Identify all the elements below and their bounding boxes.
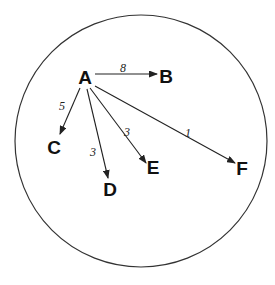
node-b: B	[159, 66, 173, 87]
edge-a-d-arrow	[87, 89, 108, 178]
nodes-group: ABCDEF	[47, 66, 248, 200]
edge-weight-a-b: 8	[120, 61, 126, 75]
edge-a-f-arrow	[95, 86, 235, 163]
node-e: E	[147, 157, 160, 178]
edge-weight-a-e: 3	[123, 125, 130, 139]
node-c: C	[47, 137, 61, 158]
node-d: D	[103, 179, 117, 200]
edge-weight-a-d: 3	[89, 145, 96, 159]
graph-diagram: 85331 ABCDEF	[0, 0, 275, 285]
node-a: A	[78, 67, 92, 88]
edge-weight-a-f: 1	[185, 126, 191, 140]
edge-weight-a-c: 5	[59, 99, 65, 113]
node-f: F	[236, 158, 248, 179]
